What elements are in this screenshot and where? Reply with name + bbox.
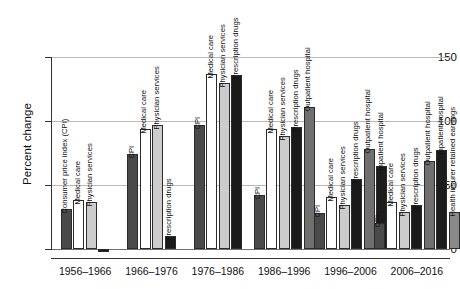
series-label: Physician services — [400, 153, 408, 216]
series-label: Physician services — [280, 78, 288, 141]
plot-area — [52, 57, 450, 249]
series-label: Physician services — [87, 143, 95, 206]
series-label: CPI — [375, 215, 383, 228]
series-label: CPI — [128, 146, 136, 159]
y-tick-mark-100 — [45, 121, 51, 122]
series-label: Outpatient hospital — [365, 89, 373, 153]
bar — [219, 83, 230, 249]
bar — [140, 129, 151, 249]
series-label: Medical care — [327, 157, 335, 201]
series-label: Medical care — [141, 90, 149, 134]
series-label: Medical care — [387, 163, 395, 207]
bar — [291, 127, 302, 249]
series-label: Prescription drugs — [166, 179, 174, 241]
series-label: Prescription drugs — [232, 17, 240, 79]
bar — [449, 212, 460, 249]
bar — [86, 202, 97, 249]
series-label: CPI — [315, 205, 323, 218]
series-label: CPI — [255, 187, 263, 200]
bar — [206, 74, 217, 249]
x-category-label: 1986–1996 — [258, 265, 311, 277]
series-label: Outpatient hospital — [425, 101, 433, 165]
x-category-label: 2006–2016 — [391, 265, 444, 277]
bar — [127, 154, 138, 249]
bar — [231, 75, 242, 249]
x-category-label: 1996–2006 — [324, 265, 377, 277]
series-label: Inpatient hospital — [377, 112, 385, 170]
y-axis-title: Percent change — [21, 54, 33, 234]
series-label: Physician services — [153, 66, 161, 129]
series-label: Medical care — [74, 161, 82, 205]
series-label: Physician services — [340, 147, 348, 210]
x-axis-line — [51, 258, 450, 259]
x-category-label: 1966–1976 — [125, 265, 178, 277]
series-label: Medical care — [207, 35, 215, 79]
series-label: Prescription drugs — [352, 121, 360, 183]
bar — [314, 213, 325, 249]
bar — [424, 161, 435, 249]
bar — [73, 200, 84, 249]
bar — [386, 202, 397, 249]
bar — [279, 136, 290, 249]
bar — [266, 129, 277, 249]
series-label: Outpatient hospital — [305, 47, 313, 111]
bar-negative — [98, 249, 109, 252]
bar — [411, 205, 422, 249]
series-label: Consumer price index (CPI) — [62, 119, 70, 214]
x-category-label: 1956–1966 — [59, 265, 112, 277]
bar — [436, 150, 447, 249]
bar — [194, 125, 205, 249]
bar — [254, 195, 265, 249]
y-tick-mark-50 — [45, 185, 51, 186]
y-tick-mark-0 — [45, 249, 51, 250]
y-tick-mark-150 — [45, 57, 51, 58]
bar — [339, 205, 350, 249]
gridline-0 — [52, 249, 450, 250]
series-label: Medical care — [267, 90, 275, 134]
bar — [351, 179, 362, 249]
bar — [399, 212, 410, 249]
series-label: Health insurer retained earnings — [450, 107, 458, 217]
series-label: Prescription drugs — [412, 148, 420, 210]
x-category-label: 1976–1986 — [192, 265, 245, 277]
series-label: Inpatient hospital — [437, 97, 445, 155]
series-label: Prescription drugs — [292, 70, 300, 132]
bar — [61, 209, 72, 249]
bar — [152, 125, 163, 249]
series-label: Physician services — [219, 24, 227, 87]
bar — [326, 197, 337, 249]
series-label: CPI — [194, 117, 202, 130]
